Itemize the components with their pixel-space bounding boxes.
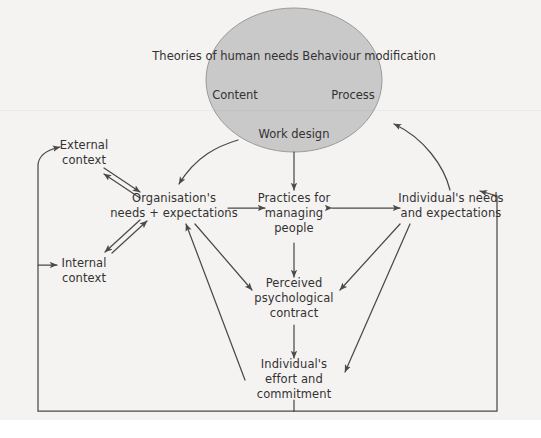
page-bottom-margin bbox=[0, 420, 541, 438]
connector-ellipse-to-organisation bbox=[179, 140, 238, 184]
connector-feedback-loop-right bbox=[294, 191, 497, 411]
diagram-page: Theories of human needs Behaviour modifi… bbox=[0, 0, 541, 438]
psychological-contract-diagram bbox=[0, 0, 541, 438]
connector-effort-to-individuals-needs bbox=[345, 224, 410, 372]
connector-organisation-to-contract bbox=[195, 224, 252, 290]
connector-internal-to-organisation bbox=[112, 221, 147, 253]
connector-organisation-to-external bbox=[104, 174, 140, 198]
connector-individuals-needs-to-contract bbox=[340, 224, 400, 290]
connector-organisation-to-internal bbox=[105, 220, 140, 252]
connector-individuals-needs-to-ellipse bbox=[394, 124, 450, 190]
theories-ellipse bbox=[206, 8, 382, 152]
connector-external-to-organisation bbox=[104, 168, 140, 192]
connector-feedback-loop-left bbox=[38, 147, 294, 411]
scan-artifact-line bbox=[0, 110, 541, 111]
